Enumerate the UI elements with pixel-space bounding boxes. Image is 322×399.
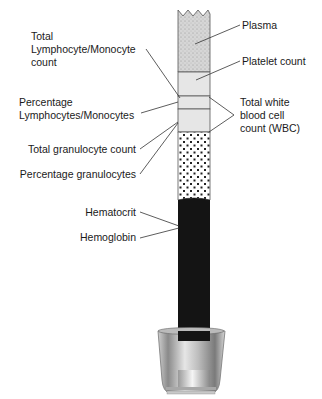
label-plasma: Plasma [242,19,277,32]
label-line: Lymphocytes/Monocytes [19,109,134,122]
label-line: Lymphocyte/Monocyte [31,43,136,56]
label-total-granulocyte: Total granulocyte count [28,143,136,156]
plasma-layer [178,10,210,72]
label-line: count (WBC) [240,122,300,135]
label-pct-granulocytes: Percentage granulocytes [20,168,136,181]
label-platelet: Platelet count [242,55,306,68]
label-hematocrit: Hematocrit [85,206,136,219]
granulocyte-layer [178,132,210,200]
label-line: Percentage [19,96,134,109]
label-line: Total white [240,96,300,109]
label-line: count [31,56,136,69]
label-total-lymph-mono: Total Lymphocyte/Monocyte count [31,30,136,69]
lymph-mono-layer [178,96,210,109]
label-hemoglobin: Hemoglobin [80,231,136,244]
tube-cap [158,328,225,395]
label-line: blood cell [240,109,300,122]
label-pct-lymph-mono: Percentage Lymphocytes/Monocytes [19,96,134,122]
buffy-lower-layer [178,109,210,132]
label-wbc: Total white blood cell count (WBC) [240,96,300,135]
red-cell-layer [178,198,210,340]
label-line: Total [31,30,136,43]
